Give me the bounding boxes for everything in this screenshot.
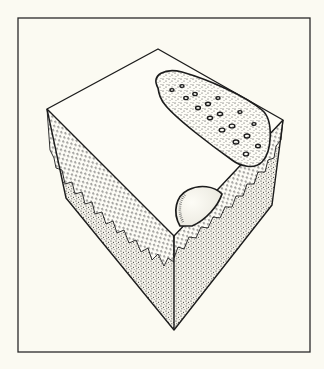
block-diagram-figure <box>0 0 324 369</box>
